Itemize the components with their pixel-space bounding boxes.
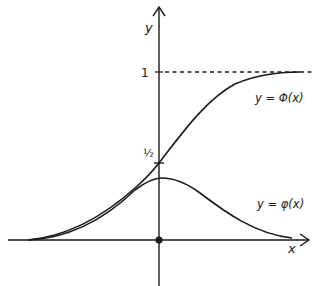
tick-half-label: ½ <box>143 147 154 160</box>
diagram-canvas: y x 1 ½ y = Φ(x) y = φ(x) <box>0 0 316 286</box>
cdf-curve-label: y = Φ(x) <box>254 91 304 105</box>
y-axis-label: y <box>144 20 153 35</box>
tick-one-label: 1 <box>141 66 149 80</box>
origin-dot <box>155 236 162 243</box>
pdf-curve-label: y = φ(x) <box>256 197 304 211</box>
x-axis-label: x <box>287 241 296 256</box>
